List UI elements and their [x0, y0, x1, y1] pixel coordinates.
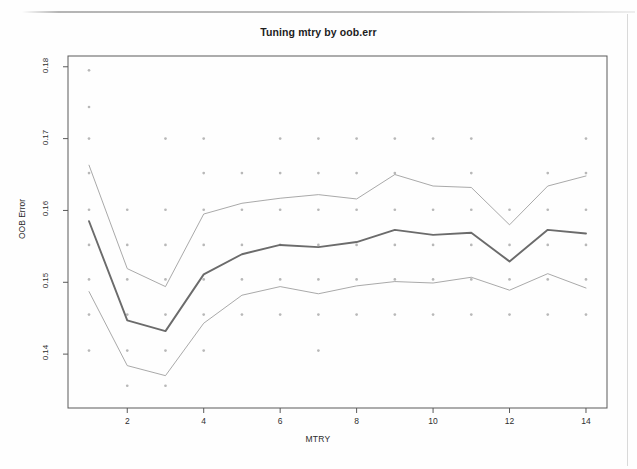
scatter-point [164, 208, 167, 211]
scatter-point [432, 137, 435, 140]
scatter-point [88, 278, 91, 281]
scatter-point [508, 313, 511, 316]
series-lines-group [89, 165, 586, 375]
scatter-point [546, 172, 549, 175]
scatter-point [546, 278, 549, 281]
scatter-point [546, 313, 549, 316]
scatter-point [126, 384, 129, 387]
x-tick-label: 8 [347, 416, 367, 426]
scatter-point [393, 244, 396, 247]
scatter-point [470, 208, 473, 211]
y-axis-label: OOB Error [17, 184, 27, 254]
scatter-point [126, 278, 129, 281]
scatter-point [202, 172, 205, 175]
plot-area [0, 0, 637, 469]
scatter-point [393, 278, 396, 281]
scatter-point [393, 172, 396, 175]
scatter-point [546, 244, 549, 247]
scatter-point [202, 349, 205, 352]
scatter-point [355, 244, 358, 247]
scatter-point [279, 172, 282, 175]
scatter-point [432, 244, 435, 247]
scatter-point [508, 208, 511, 211]
scatter-point [393, 137, 396, 140]
scatter-point [202, 244, 205, 247]
scatter-point [164, 137, 167, 140]
scatter-point [317, 313, 320, 316]
scatter-point [202, 137, 205, 140]
scatter-point [355, 313, 358, 316]
scatter-point [585, 208, 588, 211]
scatter-point [508, 244, 511, 247]
scatter-point [126, 244, 129, 247]
scatter-point [317, 137, 320, 140]
scatter-point [432, 278, 435, 281]
scatter-point [508, 278, 511, 281]
scatter-point [241, 172, 244, 175]
x-tick-label: 14 [576, 416, 596, 426]
y-tick-label: 0.17 [41, 124, 50, 150]
x-tick-label: 2 [117, 416, 137, 426]
x-tick-label: 12 [500, 416, 520, 426]
x-tick-label: 10 [423, 416, 443, 426]
x-axis-label: MTRY [268, 434, 368, 444]
figure-page: Tuning mtry by oob.err 0.140.150.160.170… [0, 0, 637, 469]
y-tick-label: 0.15 [41, 268, 50, 294]
scatter-point [432, 313, 435, 316]
scatter-point [164, 278, 167, 281]
scatter-point [585, 137, 588, 140]
scatter-point [470, 137, 473, 140]
scatter-point [355, 137, 358, 140]
scatter-point [470, 172, 473, 175]
scatter-point [241, 313, 244, 316]
scatter-point [393, 313, 396, 316]
scatter-point [393, 208, 396, 211]
scatter-point [355, 208, 358, 211]
scatter-point [546, 208, 549, 211]
scatter-point [355, 172, 358, 175]
scatter-point [88, 69, 91, 72]
scatter-point [585, 313, 588, 316]
scatter-point [88, 137, 91, 140]
scatter-point [241, 208, 244, 211]
series-line-0 [89, 221, 586, 331]
scatter-point [279, 137, 282, 140]
scatter-point [317, 172, 320, 175]
scatter-point [470, 313, 473, 316]
scatter-point [88, 313, 91, 316]
scatter-points-group [88, 69, 588, 387]
scatter-point [317, 208, 320, 211]
scatter-point [279, 313, 282, 316]
scatter-point [88, 349, 91, 352]
scatter-point [585, 244, 588, 247]
series-line-2 [89, 274, 586, 376]
scatter-point [317, 244, 320, 247]
scatter-point [585, 172, 588, 175]
scatter-point [88, 244, 91, 247]
axes-group [63, 56, 607, 413]
scatter-point [164, 313, 167, 316]
scatter-point [241, 244, 244, 247]
scatter-point [126, 349, 129, 352]
scatter-point [164, 384, 167, 387]
series-line-1 [89, 165, 586, 286]
scatter-point [317, 278, 320, 281]
scatter-point [279, 278, 282, 281]
scatter-point [202, 313, 205, 316]
scatter-point [126, 208, 129, 211]
scatter-point [202, 278, 205, 281]
x-tick-label: 4 [194, 416, 214, 426]
scatter-point [202, 208, 205, 211]
scatter-point [241, 278, 244, 281]
scatter-point [88, 172, 91, 175]
x-tick-label: 6 [270, 416, 290, 426]
scatter-point [585, 278, 588, 281]
scatter-point [88, 208, 91, 211]
y-tick-label: 0.16 [41, 196, 50, 222]
scatter-point [317, 349, 320, 352]
scatter-point [88, 106, 91, 109]
scatter-point [470, 278, 473, 281]
scatter-point [164, 244, 167, 247]
scatter-point [279, 208, 282, 211]
scatter-point [164, 349, 167, 352]
